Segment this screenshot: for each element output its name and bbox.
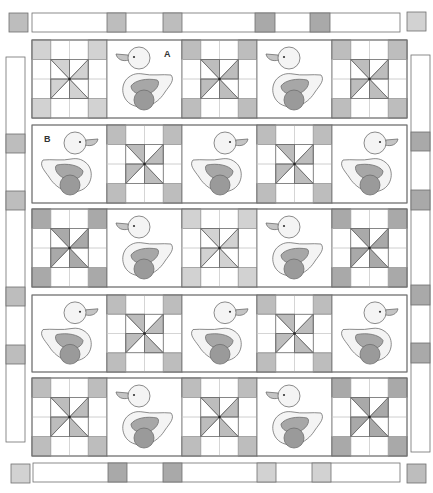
corner-square <box>107 295 126 314</box>
corner-square <box>32 437 51 457</box>
corner-square <box>88 99 107 119</box>
duck-wheel <box>210 175 230 195</box>
duck-wheel <box>134 428 154 448</box>
duck-block <box>257 209 332 287</box>
border-segment <box>6 287 25 306</box>
corner-square <box>88 209 107 229</box>
pinwheel-block <box>182 40 257 118</box>
block-label: B <box>44 134 51 144</box>
corner-square <box>388 209 407 229</box>
duck-head <box>278 47 300 69</box>
duck-eye <box>283 394 285 396</box>
corner-square <box>388 40 407 60</box>
duck-eye <box>283 56 285 58</box>
pinwheel-block <box>182 209 257 287</box>
border-strip <box>32 13 400 32</box>
border-strip <box>33 463 400 482</box>
corner-square <box>238 40 257 60</box>
pinwheel-center-dot <box>368 416 371 419</box>
duck-wheel <box>134 259 154 279</box>
duck-eye <box>379 141 381 143</box>
pinwheel-center-dot <box>293 332 296 335</box>
corner-square <box>257 125 276 145</box>
corner-square <box>182 209 201 229</box>
border-segment <box>108 463 127 482</box>
corner-square <box>332 437 351 457</box>
pinwheel-block <box>107 295 182 372</box>
duck-eye <box>133 56 135 58</box>
duck-block: A <box>107 40 182 118</box>
corner-square <box>182 268 201 288</box>
corner-square <box>163 125 182 145</box>
pinwheel-block <box>257 125 332 203</box>
duck-block <box>107 378 182 456</box>
duck-block <box>107 209 182 287</box>
pinwheel-block <box>32 378 107 456</box>
corner-square <box>88 268 107 288</box>
duck-block <box>32 295 107 372</box>
corner-square <box>332 40 351 60</box>
duck-eye <box>283 225 285 227</box>
duck-head <box>214 302 236 324</box>
corner-square <box>107 125 126 145</box>
border-segment <box>411 132 430 151</box>
duck-head <box>128 385 150 407</box>
duck-eye <box>79 141 81 143</box>
duck-wheel <box>284 428 304 448</box>
corner-square <box>388 268 407 288</box>
corner-square <box>238 378 257 398</box>
duck-wheel <box>60 344 80 364</box>
corner-square <box>107 353 126 372</box>
corner-square <box>313 353 332 372</box>
border-segment <box>257 463 276 482</box>
duck-head <box>64 302 86 324</box>
quilt-rows: AB <box>32 40 407 456</box>
pinwheel-block <box>257 295 332 372</box>
border-segment <box>107 13 126 32</box>
corner-square <box>257 353 276 372</box>
corner-square-bottom-left <box>11 464 30 483</box>
duck-block <box>182 125 257 203</box>
duck-wheel <box>210 344 230 364</box>
pinwheel-center-dot <box>68 416 71 419</box>
border-segment <box>6 191 25 210</box>
duck-head <box>278 216 300 238</box>
quilt-row-3 <box>32 209 407 287</box>
corner-square <box>88 40 107 60</box>
corner-square <box>388 378 407 398</box>
duck-wheel <box>284 259 304 279</box>
corner-square <box>313 295 332 314</box>
corner-square <box>257 295 276 314</box>
corner-square <box>163 184 182 204</box>
border-strip <box>411 55 430 452</box>
corner-square <box>107 184 126 204</box>
duck-head <box>278 385 300 407</box>
duck-head <box>128 216 150 238</box>
border-segment <box>6 134 25 153</box>
pinwheel-center-dot <box>218 78 221 81</box>
corner-square <box>163 295 182 314</box>
pinwheel-center-dot <box>368 247 371 250</box>
corner-square <box>32 268 51 288</box>
quilt-row-4 <box>32 295 407 372</box>
quilt-diagram: AB <box>0 0 433 493</box>
pinwheel-center-dot <box>218 247 221 250</box>
duck-eye <box>133 394 135 396</box>
corner-square <box>388 437 407 457</box>
corner-square <box>313 184 332 204</box>
corner-square <box>32 209 51 229</box>
duck-eye <box>133 225 135 227</box>
corner-square-top-left <box>9 13 28 32</box>
border-segment <box>310 13 330 32</box>
border-strip <box>6 57 25 442</box>
corner-square <box>257 184 276 204</box>
quilt-row-1: A <box>32 40 407 118</box>
corner-square <box>388 99 407 119</box>
corner-square <box>182 437 201 457</box>
duck-wheel <box>360 344 380 364</box>
corner-square <box>313 125 332 145</box>
border-left <box>6 57 25 442</box>
duck-block <box>332 125 407 203</box>
pinwheel-center-dot <box>293 163 296 166</box>
border-top <box>32 13 400 32</box>
